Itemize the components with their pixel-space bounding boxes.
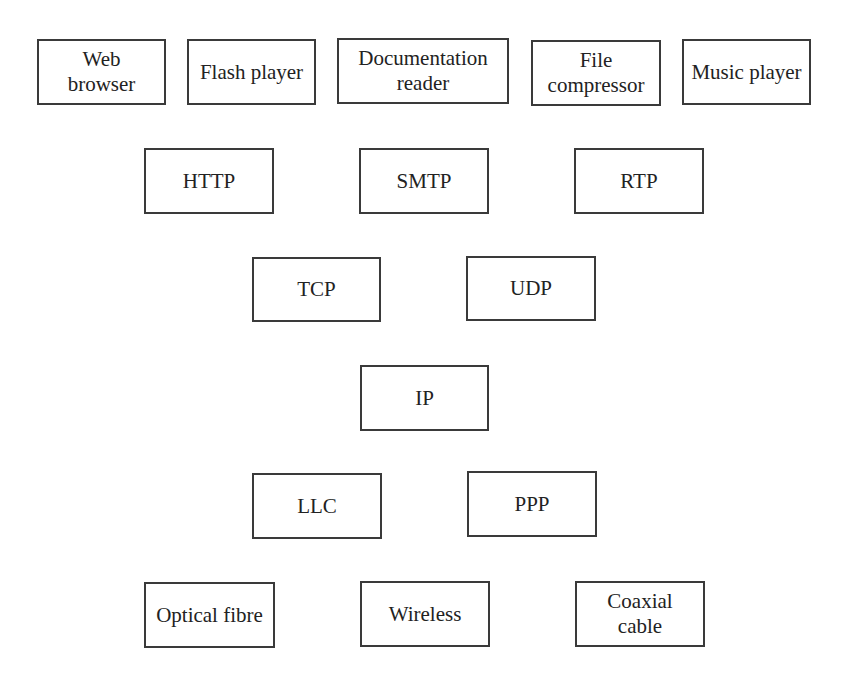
node-http: HTTP	[144, 148, 274, 214]
node-label: File compressor	[548, 48, 645, 98]
node-documentation-reader: Documentation reader	[337, 38, 509, 104]
node-music-player: Music player	[682, 39, 811, 105]
node-udp: UDP	[466, 256, 596, 321]
node-label: Web browser	[68, 47, 136, 97]
node-flash-player: Flash player	[187, 39, 316, 105]
node-label: PPP	[514, 492, 549, 517]
node-label: Optical fibre	[156, 603, 263, 628]
node-label: LLC	[297, 494, 337, 519]
node-label: Music player	[691, 60, 801, 85]
node-label: IP	[415, 386, 434, 411]
node-wireless: Wireless	[360, 581, 490, 647]
node-web-browser: Web browser	[37, 39, 166, 105]
node-coaxial-cable: Coaxial cable	[575, 581, 705, 647]
node-file-compressor: File compressor	[531, 40, 661, 106]
node-label: HTTP	[183, 169, 236, 194]
node-label: UDP	[510, 276, 552, 301]
node-label: Wireless	[389, 602, 462, 627]
node-label: TCP	[297, 277, 336, 302]
node-label: SMTP	[397, 169, 452, 194]
node-rtp: RTP	[574, 148, 704, 214]
node-ppp: PPP	[467, 471, 597, 537]
node-label: Documentation reader	[358, 46, 487, 96]
node-smtp: SMTP	[359, 148, 489, 214]
node-llc: LLC	[252, 473, 382, 539]
node-label: RTP	[620, 169, 657, 194]
node-label: Flash player	[200, 60, 303, 85]
node-tcp: TCP	[252, 257, 381, 322]
node-optical-fibre: Optical fibre	[144, 582, 275, 648]
node-label: Coaxial cable	[607, 589, 672, 639]
node-ip: IP	[360, 365, 489, 431]
